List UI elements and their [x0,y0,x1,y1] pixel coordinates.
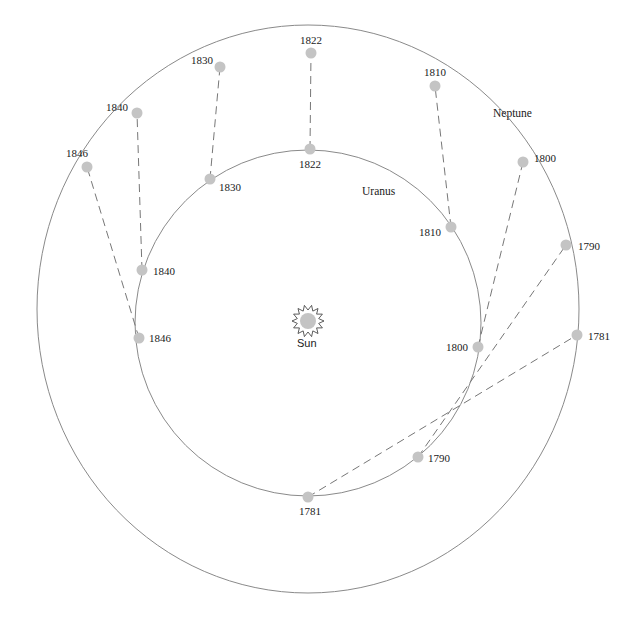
neptune-year-label: 1830 [191,54,214,66]
sightline-1830 [210,67,220,179]
sun-icon [292,305,324,336]
neptune-position-1790 [561,240,572,251]
uranus-position-1790 [413,452,424,463]
neptune-year-label: 1800 [534,152,557,164]
uranus-year-label: 1846 [149,332,172,344]
sightline-1800 [478,162,523,347]
neptune-year-label: 1846 [66,147,89,159]
uranus-year-label: 1810 [419,226,442,238]
sun-disc-icon [300,313,316,329]
uranus-year-label: 1781 [299,505,321,517]
neptune-year-label: 1790 [578,240,601,252]
neptune-position-1800 [518,157,529,168]
uranus-position-1822 [305,144,316,155]
orbit-diagram: UranusNeptune178117811790179018001800181… [0,0,643,632]
sightline-1840 [137,113,142,270]
uranus-year-label: 1800 [446,341,469,353]
sightline-1810 [435,86,451,227]
uranus-year-label: 1830 [219,181,242,193]
neptune-year-label: 1822 [300,34,322,46]
neptune-position-1830 [215,62,226,73]
uranus-position-1800 [473,342,484,353]
neptune-year-label: 1840 [106,101,129,113]
uranus-year-label: 1790 [428,452,451,464]
sightline-1790 [418,245,566,457]
neptune-label: Neptune [493,107,532,120]
uranus-position-1810 [446,222,457,233]
sun-label: Sun [297,337,317,349]
uranus-position-1840 [137,265,148,276]
neptune-position-1781 [572,330,583,341]
labels: UranusNeptune178117811790179018001800181… [66,34,610,517]
sightline-1846 [87,167,139,338]
uranus-position-1830 [205,174,216,185]
uranus-year-label: 1840 [153,265,176,277]
neptune-year-label: 1810 [424,66,447,78]
uranus-year-label: 1822 [299,158,321,170]
sightline-1822 [310,53,311,149]
neptune-year-label: 1781 [588,330,610,342]
uranus-label: Uranus [362,185,396,197]
sightline-1781 [308,335,577,497]
neptune-position-1846 [82,162,93,173]
uranus-position-1781 [303,492,314,503]
neptune-position-1822 [306,48,317,59]
uranus-position-1846 [134,333,145,344]
neptune-position-1810 [430,81,441,92]
neptune-position-1840 [132,108,143,119]
